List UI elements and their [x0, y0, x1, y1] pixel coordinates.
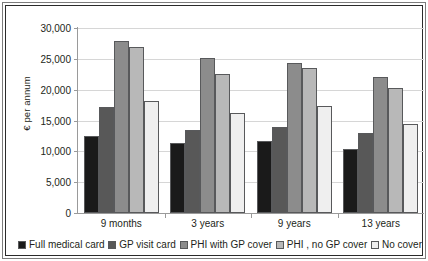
x-axis-separator	[338, 213, 339, 218]
bar	[99, 107, 114, 213]
bar	[144, 101, 159, 213]
y-axis-tick	[74, 59, 78, 60]
y-axis-tick-label: 20,000	[40, 84, 71, 95]
chart-figure: € per annum 05,00010,00015,00020,00025,0…	[0, 0, 428, 261]
bar	[215, 74, 230, 213]
y-axis-tick	[74, 28, 78, 29]
legend-item[interactable]: PHI with GP cover	[180, 240, 273, 250]
y-axis-tick-label: 15,000	[40, 115, 71, 126]
y-axis-tick	[74, 151, 78, 152]
y-axis-tick-label: 25,000	[40, 53, 71, 64]
bar	[114, 41, 129, 213]
chart-legend: Full medical cardGP visit cardPHI with G…	[18, 240, 422, 250]
legend-item[interactable]: No cover	[371, 240, 422, 250]
bar	[343, 149, 358, 213]
legend-label: PHI with GP cover	[191, 240, 273, 250]
legend-item[interactable]: PHI , no GP cover	[276, 240, 367, 250]
y-axis-tick	[74, 121, 78, 122]
x-axis-separator	[251, 213, 252, 218]
legend-label: Full medical card	[29, 240, 105, 250]
y-axis-tick-label: 10,000	[40, 146, 71, 157]
bar	[230, 113, 245, 213]
bar	[84, 136, 99, 213]
bar-group	[343, 28, 418, 213]
bar	[170, 143, 185, 213]
legend-swatch-icon	[276, 241, 284, 249]
x-axis-tick-label: 9 months	[101, 218, 142, 229]
figure-inner-border: € per annum 05,00010,00015,00020,00025,0…	[5, 5, 423, 256]
bar	[358, 133, 373, 213]
legend-label: No cover	[382, 240, 422, 250]
bar	[257, 141, 272, 213]
bar	[185, 130, 200, 213]
bar	[317, 106, 332, 213]
plot-area: 05,00010,00015,00020,00025,00030,000	[78, 28, 424, 213]
legend-swatch-icon	[371, 241, 379, 249]
x-axis-tick-label: 9 years	[278, 218, 311, 229]
y-axis-title: € per annum	[21, 44, 32, 164]
bar	[302, 68, 317, 213]
bar	[200, 58, 215, 213]
bar	[403, 124, 418, 213]
x-axis-tick-label: 3 years	[191, 218, 224, 229]
bar	[388, 88, 403, 213]
legend-swatch-icon	[180, 241, 188, 249]
y-axis-tick	[74, 213, 78, 214]
bar	[287, 63, 302, 213]
bar	[373, 77, 388, 213]
bar	[129, 47, 144, 214]
legend-swatch-icon	[18, 241, 26, 249]
bar-group	[257, 28, 332, 213]
legend-swatch-icon	[108, 241, 116, 249]
y-axis-tick-label: 30,000	[40, 23, 71, 34]
y-axis-tick-label: 0	[65, 208, 71, 219]
y-axis-tick-label: 5,000	[46, 177, 71, 188]
legend-label: GP visit card	[119, 240, 176, 250]
legend-label: PHI , no GP cover	[287, 240, 367, 250]
x-axis-separator	[165, 213, 166, 218]
legend-item[interactable]: Full medical card	[18, 240, 105, 250]
y-axis-tick	[74, 182, 78, 183]
x-axis-tick-label: 13 years	[362, 218, 400, 229]
bar	[272, 127, 287, 213]
legend-item[interactable]: GP visit card	[108, 240, 176, 250]
y-axis-tick	[74, 90, 78, 91]
bar-group	[170, 28, 245, 213]
bar-group	[84, 28, 159, 213]
